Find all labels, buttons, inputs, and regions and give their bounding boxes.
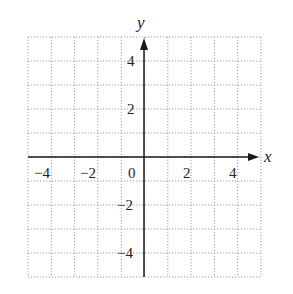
y-tick-label: 2: [127, 101, 135, 117]
x-axis-label: x: [263, 147, 272, 166]
x-tick-label: −2: [80, 165, 96, 181]
x-tick-label: 4: [229, 165, 237, 181]
x-tick-label: −4: [34, 165, 50, 181]
y-tick-label: −2: [117, 197, 133, 213]
coordinate-plane: x y −4 −2 0 2 4 4 2 −2 −4: [0, 0, 293, 294]
y-tick-label: −4: [117, 245, 133, 261]
x-axis-arrow-icon: [248, 153, 259, 161]
x-tick-label: 0: [128, 165, 136, 181]
x-tick-label: 2: [183, 165, 191, 181]
y-axis-arrow-icon: [140, 38, 148, 50]
y-tick-label: 4: [127, 53, 135, 69]
y-axis-label: y: [135, 13, 145, 32]
